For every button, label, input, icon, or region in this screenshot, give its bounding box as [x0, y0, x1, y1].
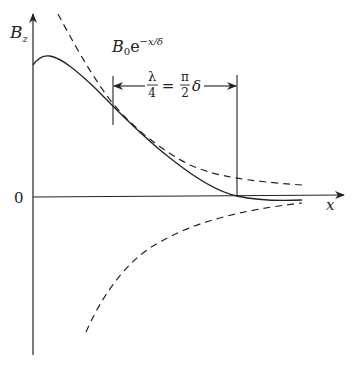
origin-label: 0 [14, 189, 24, 207]
span-rhs-tail: δ [192, 77, 201, 95]
span-rhs-den: 2 [181, 86, 189, 100]
x-axis-label: x [326, 196, 335, 214]
y-axis-label: Bz [9, 22, 29, 44]
span-lhs-den: 4 [148, 86, 156, 100]
skin-effect-diagram: Bz 0 x B0e−x/δ λ 4 = π 2 δ [0, 0, 358, 369]
span-lhs-num: λ [148, 69, 156, 84]
upper-envelope-curve [58, 14, 302, 185]
span-eq: = [162, 77, 175, 95]
lower-envelope-curve [86, 203, 302, 332]
envelope-label: B0e−x/δ [111, 36, 163, 57]
span-label: λ 4 = π 2 δ [147, 69, 201, 100]
span-rhs-num: π [181, 70, 189, 84]
x-axis [33, 195, 344, 197]
